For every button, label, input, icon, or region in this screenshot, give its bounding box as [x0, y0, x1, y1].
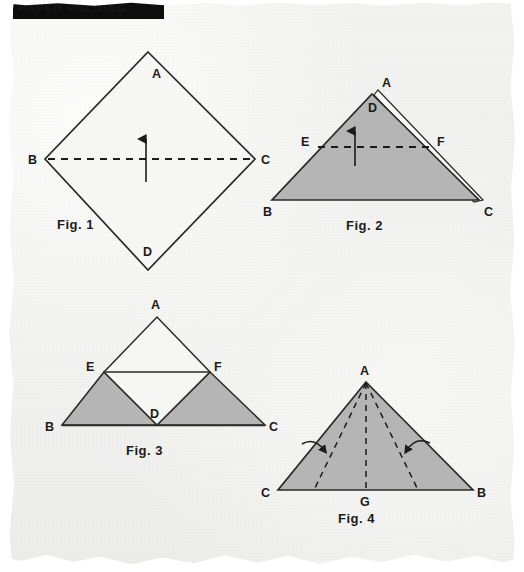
figure-4: A C B G Fig. 4	[261, 364, 486, 526]
fig1-vertex-label-d: D	[143, 245, 152, 259]
fig3-vertex-label-b: B	[45, 420, 54, 434]
fig3-caption: Fig. 3	[126, 443, 163, 458]
scanned-page: PAPER FOLDING A B C D Fig. 1	[0, 0, 524, 572]
fig2-vertex-label-d: D	[368, 101, 377, 115]
fig3-vertex-label-c: C	[269, 420, 278, 434]
figure-3: A E F D B C Fig. 3	[45, 298, 278, 458]
fig4-triangle-body	[278, 382, 473, 490]
fig1-vertex-label-c: C	[261, 153, 270, 167]
fig2-vertex-label-b: B	[263, 205, 272, 219]
fig4-vertex-label-c: C	[261, 486, 270, 500]
fig3-vertex-label-a: A	[151, 298, 160, 312]
fig2-vertex-label-a: A	[382, 76, 391, 90]
fig2-vertex-label-f: F	[437, 135, 445, 149]
fig3-vertex-label-e: E	[86, 360, 94, 374]
fig1-square-outline	[45, 52, 255, 270]
figure-2: A D B C E F Fig. 2	[263, 76, 493, 233]
fig4-vertex-label-b: B	[477, 486, 486, 500]
fig4-vertex-label-a: A	[360, 364, 369, 378]
fig2-caption: Fig. 2	[346, 218, 383, 233]
figures-illustration: A B C D Fig. 1 A D B C E F Fig. 2	[0, 0, 524, 572]
fig4-caption: Fig. 4	[338, 511, 375, 526]
fig2-vertex-label-e: E	[301, 135, 309, 149]
fig4-vertex-label-g: G	[360, 495, 370, 509]
fig1-vertex-label-b: B	[28, 153, 37, 167]
fig2-vertex-label-c: C	[484, 205, 493, 219]
fig3-vertex-label-f: F	[214, 360, 222, 374]
figure-1: A B C D Fig. 1	[28, 52, 270, 270]
fig1-vertex-label-a: A	[152, 67, 161, 81]
fig1-caption: Fig. 1	[57, 217, 94, 232]
fig3-vertex-label-d: D	[150, 407, 159, 421]
